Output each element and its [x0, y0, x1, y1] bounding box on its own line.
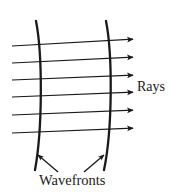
rays-label: Rays — [137, 80, 165, 94]
wavefront-pointer-arrows — [38, 155, 104, 172]
rays-group — [12, 39, 133, 133]
ray-line-4 — [12, 92, 133, 97]
ray-line-6 — [12, 128, 133, 133]
rays-wavefronts-diagram — [0, 0, 171, 192]
wavefronts-label: Wavefronts — [39, 173, 105, 188]
ray-line-2 — [12, 57, 133, 63]
ray-line-3 — [12, 75, 133, 80]
wavefront-curve-right — [104, 21, 111, 170]
ray-line-5 — [12, 110, 133, 115]
pointer-arrow-left — [38, 155, 58, 172]
pointer-arrow-right — [84, 155, 104, 172]
ray-line-1 — [12, 39, 133, 46]
figure-container: Rays Wavefronts — [0, 0, 171, 192]
